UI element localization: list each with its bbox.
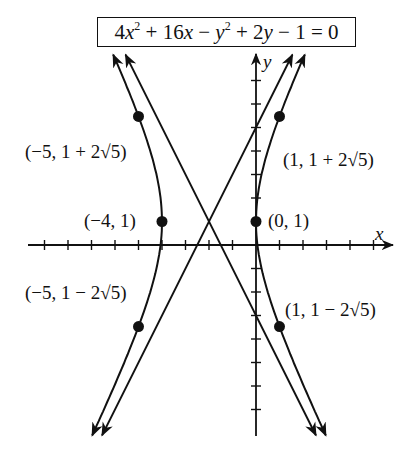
point-label-upper-left: (−5, 1 + 2√5) [25, 142, 127, 161]
point-vertex-left [157, 216, 168, 227]
equation-text: 4x2 + 16x − y2 + 2y − 1 = 0 [114, 19, 338, 45]
point-label-vertex-left: (−4, 1) [84, 211, 136, 230]
point-label-vertex-right: (0, 1) [268, 211, 309, 230]
axes [28, 54, 393, 436]
point-lower-left [133, 321, 144, 332]
point-lower-right [274, 321, 285, 332]
point-label-lower-left: (−5, 1 − 2√5) [25, 283, 127, 302]
hyperbola-figure: 4x2 + 16x − y2 + 2y − 1 = 0 x y (−5, 1 +… [0, 0, 417, 454]
plot-canvas [0, 0, 417, 454]
point-upper-right [274, 111, 285, 122]
point-upper-left [133, 111, 144, 122]
y-axis-label: y [263, 52, 271, 71]
equation-box: 4x2 + 16x − y2 + 2y − 1 = 0 [97, 17, 356, 47]
point-label-lower-right: (1, 1 − 2√5) [285, 300, 376, 319]
point-vertex-right [251, 216, 262, 227]
point-label-upper-right: (1, 1 + 2√5) [283, 150, 374, 169]
x-axis-label: x [375, 224, 383, 243]
